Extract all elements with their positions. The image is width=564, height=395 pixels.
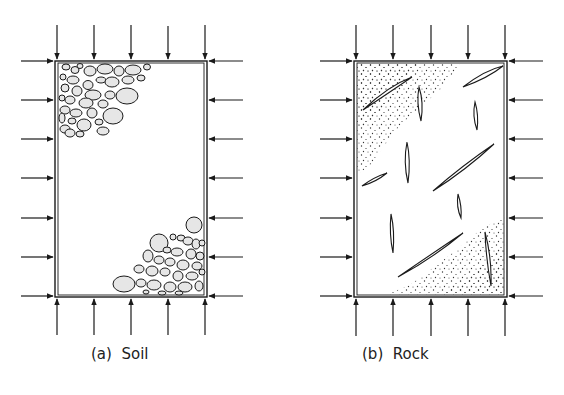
caption-label: Rock <box>393 345 429 363</box>
caption-letter: b <box>368 345 378 363</box>
soil-rock-diagram <box>0 0 564 395</box>
caption-letter: a <box>97 345 106 363</box>
vertical-stress-arrows-top <box>356 25 505 59</box>
lateral-stress-arrows-left <box>21 61 53 296</box>
panel-soil <box>21 25 243 335</box>
lateral-stress-arrows-right <box>209 61 243 296</box>
vertical-stress-arrows-top <box>57 25 205 59</box>
caption-paren-close: ) <box>106 345 112 363</box>
soil-grains-bottom-right <box>113 217 205 295</box>
caption-label: Soil <box>121 345 148 363</box>
caption-rock: (b) Rock <box>362 345 429 363</box>
lateral-stress-arrows-left <box>320 61 352 296</box>
vertical-stress-arrows-bottom <box>57 299 205 335</box>
lateral-stress-arrows-right <box>509 61 543 296</box>
soil-grains-top-left <box>59 64 151 138</box>
caption-paren-close: ) <box>377 345 383 363</box>
vertical-stress-arrows-bottom <box>356 299 505 336</box>
caption-soil: (a) Soil <box>91 345 149 363</box>
panel-rock <box>320 25 543 336</box>
